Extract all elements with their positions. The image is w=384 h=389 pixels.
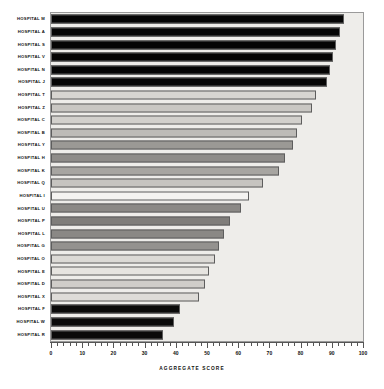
y-axis-label: HOSPITAL F xyxy=(18,306,45,311)
x-axis-major-tick xyxy=(145,342,146,348)
x-axis-minor-tick xyxy=(107,342,108,346)
x-axis-tick-label: 100 xyxy=(359,350,367,356)
bar xyxy=(51,53,333,62)
bar xyxy=(51,116,302,125)
x-axis-minor-tick xyxy=(244,342,245,346)
bar xyxy=(51,229,224,238)
y-axis-label: HOSPITAL H xyxy=(18,155,45,160)
bar xyxy=(51,204,241,213)
x-axis-minor-tick xyxy=(288,342,289,346)
x-axis-major-tick xyxy=(363,342,364,348)
aggregate-score-bar-chart: HOSPITAL MHOSPITAL AHOSPITAL SHOSPITAL V… xyxy=(0,0,384,389)
bar xyxy=(51,166,279,175)
bar xyxy=(51,330,163,339)
x-axis-minor-tick xyxy=(282,342,283,346)
bar-row xyxy=(51,190,363,203)
bar-row xyxy=(51,89,363,102)
bar-row xyxy=(51,38,363,51)
bar-row xyxy=(51,76,363,89)
x-axis-minor-tick xyxy=(182,342,183,346)
bar-row xyxy=(51,215,363,228)
bar xyxy=(51,141,293,150)
x-axis-minor-tick xyxy=(195,342,196,346)
bar-row xyxy=(51,290,363,303)
bar-row xyxy=(51,278,363,291)
bar-row xyxy=(51,328,363,341)
bar xyxy=(51,65,330,74)
y-axis-label: HOSPITAL Q xyxy=(17,180,45,185)
bar-row xyxy=(51,164,363,177)
x-axis-minor-tick xyxy=(63,342,64,346)
bar-row xyxy=(51,114,363,127)
bar-row xyxy=(51,227,363,240)
y-axis-label: HOSPITAL K xyxy=(18,167,45,172)
x-axis-minor-tick xyxy=(251,342,252,346)
bar-row xyxy=(51,101,363,114)
x-axis-tick-label: 10 xyxy=(79,350,85,356)
x-axis-minor-tick xyxy=(101,342,102,346)
x-axis-minor-tick xyxy=(319,342,320,346)
x-axis-minor-tick xyxy=(57,342,58,346)
bar-row xyxy=(51,51,363,64)
x-axis-minor-tick xyxy=(232,342,233,346)
bar xyxy=(51,217,230,226)
x-axis-minor-tick xyxy=(188,342,189,346)
y-axis-label: HOSPITAL Z xyxy=(18,104,45,109)
x-axis: 0102030405060708090100 xyxy=(50,342,364,343)
bar-row xyxy=(51,139,363,152)
bar xyxy=(51,267,209,276)
bar-row xyxy=(51,177,363,190)
x-axis-minor-tick xyxy=(257,342,258,346)
plot-area xyxy=(50,12,364,342)
bar xyxy=(51,103,312,112)
bar-rows xyxy=(51,13,363,341)
x-axis-major-tick xyxy=(301,342,302,348)
y-axis-label: HOSPITAL D xyxy=(18,281,45,286)
bar-row xyxy=(51,240,363,253)
y-axis-label: HOSPITAL W xyxy=(17,319,45,324)
x-axis-tick-label: 80 xyxy=(298,350,304,356)
y-axis-label: HOSPITAL B xyxy=(18,129,45,134)
y-axis-label: HOSPITAL N xyxy=(18,66,45,71)
x-axis-minor-tick xyxy=(307,342,308,346)
x-axis-tick-label: 70 xyxy=(267,350,273,356)
bar xyxy=(51,254,215,263)
x-axis-minor-tick xyxy=(70,342,71,346)
x-axis-tick-label: 90 xyxy=(329,350,335,356)
x-axis-tick-label: 0 xyxy=(50,350,53,356)
x-axis-minor-tick xyxy=(157,342,158,346)
y-axis-label: HOSPITAL Y xyxy=(18,142,45,147)
bar-row xyxy=(51,202,363,215)
x-axis-minor-tick xyxy=(132,342,133,346)
y-axis-label: HOSPITAL T xyxy=(18,92,45,97)
bar xyxy=(51,292,199,301)
x-axis-minor-tick xyxy=(138,342,139,346)
bar xyxy=(51,128,297,137)
x-axis-minor-tick xyxy=(344,342,345,346)
bar xyxy=(51,78,327,87)
bar-row xyxy=(51,13,363,26)
y-axis-label: HOSPITAL P xyxy=(18,218,45,223)
x-axis-major-tick xyxy=(51,342,52,348)
y-axis-label: HOSPITAL I xyxy=(19,192,45,197)
bar-row xyxy=(51,303,363,316)
y-axis-label: HOSPITAL R xyxy=(18,331,45,336)
bar-row xyxy=(51,253,363,266)
x-axis-minor-tick xyxy=(351,342,352,346)
x-axis-minor-tick xyxy=(294,342,295,346)
x-axis-major-tick xyxy=(207,342,208,348)
x-axis-major-tick xyxy=(332,342,333,348)
bar xyxy=(51,280,205,289)
x-axis-minor-tick xyxy=(263,342,264,346)
x-axis-major-tick xyxy=(238,342,239,348)
bar xyxy=(51,154,285,163)
y-axis-label: HOSPITAL X xyxy=(18,293,45,298)
x-axis-tick-label: 20 xyxy=(111,350,117,356)
y-axis-label: HOSPITAL S xyxy=(18,41,45,46)
x-axis-minor-tick xyxy=(95,342,96,346)
x-axis-title: AGGREGATE SCORE xyxy=(0,366,384,371)
bar xyxy=(51,179,263,188)
bar xyxy=(51,15,344,24)
y-axis-label: HOSPITAL M xyxy=(17,16,45,21)
y-axis-label: HOSPITAL C xyxy=(18,117,45,122)
